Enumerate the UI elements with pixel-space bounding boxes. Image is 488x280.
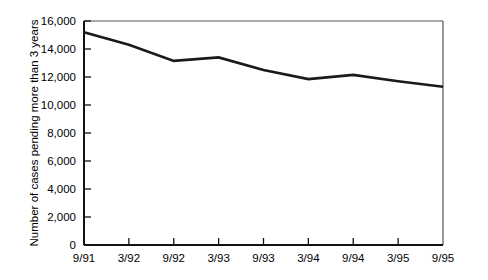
- y-axis-tick-label: 12,000: [41, 71, 76, 83]
- y-axis-tick-label: 6,000: [47, 155, 76, 167]
- x-axis-tick-label: 9/92: [163, 252, 185, 264]
- y-axis-tick-label: 2,000: [47, 211, 76, 223]
- y-axis-tick-label: 4,000: [47, 183, 76, 195]
- x-axis-tick-label: 9/95: [432, 252, 454, 264]
- chart-background: [0, 0, 488, 280]
- x-axis-tick-label: 9/93: [252, 252, 274, 264]
- y-axis-title: Number of cases pending more than 3 year…: [28, 19, 40, 246]
- y-axis-tick-label: 14,000: [41, 43, 76, 55]
- x-axis-tick-label: 3/95: [387, 252, 409, 264]
- chart-container: 02,0004,0006,0008,00010,00012,00014,0001…: [0, 0, 488, 280]
- x-axis-tick-label: 3/92: [118, 252, 140, 264]
- y-axis-tick-label: 8,000: [47, 127, 76, 139]
- x-axis-tick-label: 3/94: [297, 252, 320, 264]
- x-axis-tick-labels: 9/913/929/923/939/933/949/943/959/95: [73, 252, 454, 264]
- y-axis-tick-label: 16,000: [41, 15, 76, 27]
- y-axis-tick-label: 0: [70, 239, 76, 251]
- x-axis-tick-label: 3/93: [207, 252, 229, 264]
- x-axis-tick-label: 9/91: [73, 252, 95, 264]
- x-axis-tick-label: 9/94: [342, 252, 365, 264]
- line-chart: 02,0004,0006,0008,00010,00012,00014,0001…: [0, 0, 488, 280]
- y-axis-tick-label: 10,000: [41, 99, 76, 111]
